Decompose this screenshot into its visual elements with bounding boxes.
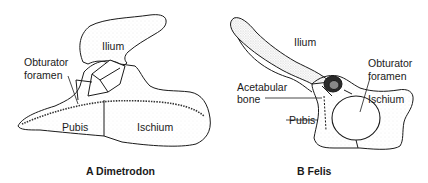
label-felis-ischium: Ischium	[368, 93, 404, 105]
caption-felis: B Felis	[297, 165, 331, 177]
label-felis-ilium: Ilium	[294, 36, 316, 48]
label-felis-pubis: Pubis	[289, 114, 315, 126]
label-felis-acetabular-2: bone	[237, 93, 260, 105]
label-dimetrodon-obturator-2: foramen	[24, 69, 63, 81]
label-dimetrodon-ischium: Ischium	[137, 121, 173, 133]
felis-ilium	[231, 18, 330, 84]
label-felis-acetabular-1: Acetabular	[237, 81, 287, 93]
label-dimetrodon-obturator-1: Obturator	[24, 56, 68, 68]
caption-dimetrodon: A Dimetrodon	[86, 165, 155, 177]
label-felis-obturator-1: Obturator	[368, 57, 412, 69]
label-felis-obturator-2: foramen	[368, 70, 407, 82]
label-dimetrodon-pubis: Pubis	[62, 121, 88, 133]
label-dimetrodon-ilium: Ilium	[102, 40, 124, 52]
pelvis-diagram-art	[0, 0, 428, 183]
